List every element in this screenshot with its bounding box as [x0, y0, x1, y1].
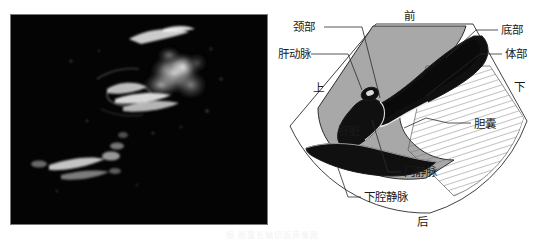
label-body: 体部 — [505, 47, 527, 61]
label-portal-vein: 门静脉 — [404, 165, 438, 179]
label-liver: 肝脏 — [338, 124, 360, 138]
label-superior: 上 — [313, 81, 324, 95]
schematic-diagram: 颈部 肝动脉 上 前 底部 体部 下 胆囊 肝脏 门静脉 下腔静脉 后 — [276, 0, 545, 240]
label-inferior: 下 — [514, 80, 525, 94]
ultrasound-canvas — [11, 15, 267, 224]
ultrasound-background — [11, 15, 267, 224]
label-ivc: 下腔静脉 — [364, 190, 409, 204]
figure-caption: 图 胆囊长轴切面声像图 — [0, 229, 545, 240]
label-anterior: 前 — [404, 9, 415, 23]
label-hepatic-artery: 肝动脉 — [278, 47, 312, 61]
label-gallbladder: 胆囊 — [474, 117, 497, 131]
diagram-canvas: 颈部 肝动脉 上 前 底部 体部 下 胆囊 肝脏 门静脉 下腔静脉 后 — [276, 0, 545, 240]
figure-container: 颈部 肝动脉 上 前 底部 体部 下 胆囊 肝脏 门静脉 下腔静脉 后 图 胆囊… — [0, 0, 545, 240]
ultrasound-image — [10, 14, 268, 225]
label-neck: 颈部 — [293, 20, 315, 34]
label-posterior: 后 — [417, 215, 428, 229]
label-fundus: 底部 — [501, 23, 523, 37]
